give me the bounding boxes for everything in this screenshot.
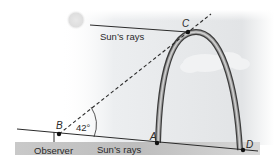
rainbow-geometry-diagram: B A C D 42° Sun’s rays Sun’s rays Observ… — [0, 0, 274, 168]
observer-label: Observer — [34, 145, 73, 156]
point-a-label: A — [149, 131, 157, 142]
top-sun-rays-label: Sun’s rays — [100, 31, 144, 42]
point-d-dot — [241, 148, 245, 152]
angle-label: 42° — [76, 122, 91, 133]
point-d-label: D — [246, 139, 253, 150]
point-b-label: B — [56, 120, 63, 131]
point-b-dot — [57, 132, 61, 136]
point-c-label: C — [182, 18, 190, 29]
point-c-dot — [186, 30, 190, 34]
sun-icon — [66, 10, 86, 30]
bottom-sun-rays-label: Sun’s rays — [97, 144, 141, 155]
